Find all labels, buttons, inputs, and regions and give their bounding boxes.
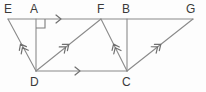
parallel-mark-CF-icon [110, 42, 121, 54]
geometry-figure: E A F B G D C [0, 0, 206, 92]
vertex-label-G: G [186, 3, 195, 15]
segment-CF [101, 19, 127, 71]
vertex-label-E: E [4, 3, 12, 15]
right-angle-mark-A [36, 19, 45, 28]
vertex-label-F: F [97, 3, 104, 15]
segment-CG [127, 19, 193, 71]
vertex-label-D: D [30, 76, 39, 88]
parallel-mark-CG-icon [151, 41, 163, 53]
vertex-label-B: B [122, 3, 130, 15]
vertex-label-C: C [122, 76, 131, 88]
parallel-marks-group [17, 15, 163, 75]
segment-group [8, 19, 193, 71]
parallel-mark-DE-icon [17, 42, 28, 54]
vertex-label-A: A [30, 3, 38, 15]
